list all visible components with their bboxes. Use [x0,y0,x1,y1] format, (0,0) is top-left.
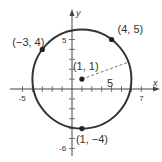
x-tick-label-7: 7 [139,94,144,103]
data-point-marker [79,77,84,82]
data-point-label: (4, 5) [118,23,144,35]
data-point-label: (−3, 4) [12,36,44,48]
data-point-label: (1, −4) [76,133,108,145]
y-tick-label-neg6: -6 [59,144,67,153]
plot-area: 5 (−3, 4)(4, 5)(1, 1)(1, −4) x y -5 7 5 … [0,0,162,162]
x-tick-label-neg5: -5 [19,94,27,103]
data-point-marker [79,126,84,131]
radius-label: 5 [107,77,113,89]
data-point-marker [109,37,114,42]
x-axis-label: x [152,78,158,88]
y-axis-label: y [75,8,81,18]
data-point-label: (1, 1) [73,60,99,72]
y-axis-arrow-icon [70,9,75,16]
y-tick-label-5: 5 [62,36,67,45]
circle-graph-figure: 5 (−3, 4)(4, 5)(1, 1)(1, −4) x y -5 7 5 … [0,0,162,162]
